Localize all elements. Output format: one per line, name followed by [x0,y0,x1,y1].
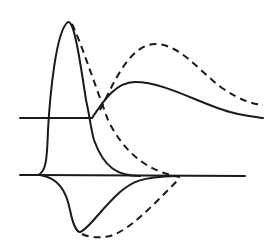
dashed-peak-decay [72,24,180,177]
waveform-diagram [0,0,273,249]
solid-peak-curve [38,22,140,176]
solid-secondary-hump [92,82,263,118]
dashed-trough-curve [82,178,180,237]
diagram-canvas [0,0,273,249]
dashed-secondary-hump [100,44,263,110]
